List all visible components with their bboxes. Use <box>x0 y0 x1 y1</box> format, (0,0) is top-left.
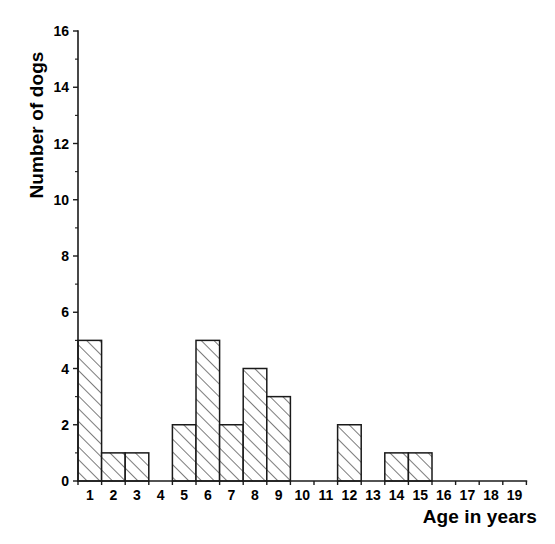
x-tick-label: 12 <box>342 487 358 503</box>
x-tick-label: 4 <box>157 487 165 503</box>
x-tick-label: 14 <box>389 487 405 503</box>
bar <box>385 453 409 481</box>
y-tick-label: 14 <box>53 79 69 95</box>
x-tick-label: 18 <box>483 487 499 503</box>
histogram-chart: Number of dogs Age in years 024681012141… <box>0 0 555 544</box>
bar <box>243 369 267 482</box>
y-ticks-group: 0246810121416 <box>53 23 78 489</box>
bar <box>172 425 196 481</box>
bar <box>408 453 432 481</box>
x-ticks-group: 12345678910111213141516171819 <box>78 481 526 503</box>
y-tick-label: 0 <box>61 473 69 489</box>
x-tick-label: 5 <box>180 487 188 503</box>
y-tick-label: 2 <box>61 417 69 433</box>
x-tick-label: 13 <box>365 487 381 503</box>
x-tick-label: 19 <box>507 487 523 503</box>
x-tick-label: 2 <box>110 487 118 503</box>
x-tick-label: 8 <box>251 487 259 503</box>
y-tick-label: 6 <box>61 304 69 320</box>
x-tick-label: 16 <box>436 487 452 503</box>
axes-group <box>78 31 526 481</box>
x-tick-label: 10 <box>294 487 310 503</box>
x-tick-label: 7 <box>228 487 236 503</box>
bar <box>102 453 126 481</box>
plot-area: 0246810121416 12345678910111213141516171… <box>0 0 555 544</box>
y-tick-label: 4 <box>61 361 69 377</box>
x-tick-label: 9 <box>275 487 283 503</box>
y-tick-label: 16 <box>53 23 69 39</box>
y-tick-label: 12 <box>53 136 69 152</box>
y-tick-label: 8 <box>61 248 69 264</box>
x-tick-label: 1 <box>86 487 94 503</box>
x-tick-label: 17 <box>460 487 476 503</box>
bars-group <box>78 340 432 481</box>
bar <box>125 453 149 481</box>
y-tick-label: 10 <box>53 192 69 208</box>
bar <box>338 425 362 481</box>
bar <box>78 340 102 481</box>
bar <box>196 340 220 481</box>
x-tick-label: 11 <box>318 487 333 503</box>
bar <box>220 425 244 481</box>
bar <box>267 397 291 481</box>
x-tick-label: 3 <box>133 487 141 503</box>
x-tick-label: 6 <box>204 487 212 503</box>
x-tick-label: 15 <box>412 487 428 503</box>
